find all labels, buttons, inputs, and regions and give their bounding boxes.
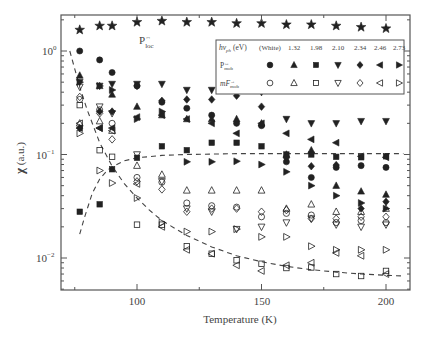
triangle-down-marker — [358, 118, 365, 124]
circle-marker — [109, 120, 115, 126]
xtick-label-100: 100 — [129, 295, 146, 307]
triangle-down-marker — [283, 220, 290, 226]
triangle-right-marker — [209, 158, 215, 165]
square-marker — [109, 154, 114, 159]
triangle-right-marker — [184, 158, 190, 165]
series-0 — [75, 16, 391, 34]
square-marker — [77, 209, 82, 214]
triangle-right-marker — [109, 180, 115, 187]
diamond-marker — [308, 163, 314, 170]
square-marker — [333, 154, 338, 159]
diamond-marker — [184, 96, 190, 103]
square-marker — [234, 140, 239, 145]
square-marker — [309, 152, 314, 157]
triangle-right-marker — [259, 233, 265, 240]
chart: 100 10−1 10−2 100 150 200 Temperature (K… — [0, 0, 428, 338]
triangle-up-marker — [96, 117, 103, 123]
triangle-up-marker — [308, 201, 315, 207]
legend-filled-square-icon — [313, 62, 318, 67]
square-marker — [134, 222, 139, 227]
triangle-left-marker — [96, 125, 102, 132]
triangle-up-marker — [183, 187, 190, 193]
square-marker — [97, 147, 102, 152]
circle-marker — [184, 105, 190, 111]
star-marker — [95, 21, 105, 30]
circle-marker — [184, 200, 190, 206]
triangle-right-marker — [284, 233, 290, 240]
square-marker — [259, 144, 264, 149]
star-marker — [207, 17, 217, 26]
legend-col-label: 1.98 — [310, 44, 323, 52]
triangle-left-marker — [332, 139, 338, 146]
triangle-left-marker — [283, 130, 289, 137]
triangle-up-marker — [208, 187, 215, 193]
fit-curve-2 — [80, 154, 404, 235]
triangle-right-marker — [184, 228, 190, 235]
diamond-marker — [109, 136, 115, 143]
triangle-right-marker — [309, 243, 315, 250]
square-marker — [77, 102, 82, 107]
star-marker — [75, 25, 85, 34]
square-marker — [209, 140, 214, 145]
triangle-left-marker — [258, 268, 264, 275]
triangle-right-marker — [284, 168, 290, 175]
series-13 — [76, 120, 389, 277]
legend-col-label: (White) — [259, 44, 281, 52]
legend-col-label: 2.34 — [354, 44, 367, 52]
circle-marker — [97, 57, 103, 63]
series-8 — [77, 96, 389, 225]
legend-col-label: 2.46 — [374, 44, 387, 52]
series-11 — [76, 84, 389, 233]
ytick-label-1e0: 100 — [42, 44, 57, 57]
ytick-label-1e-2: 10−2 — [36, 251, 55, 264]
x-axis-title: Temperature (K) — [203, 313, 277, 326]
triangle-up-marker — [134, 103, 141, 109]
triangle-up-marker — [358, 188, 365, 194]
triangle-right-marker — [333, 192, 339, 199]
diamond-marker — [258, 103, 264, 110]
triangle-down-marker — [183, 87, 190, 93]
diamond-marker — [208, 96, 214, 103]
triangle-up-marker — [233, 187, 240, 193]
star-marker — [182, 17, 192, 26]
series-9 — [76, 117, 389, 214]
xtick-label-150: 150 — [254, 295, 271, 307]
series-5 — [77, 82, 390, 212]
triangle-up-marker — [258, 187, 265, 193]
legend-col-label: 2.73 — [393, 44, 406, 52]
circle-marker — [358, 163, 364, 169]
triangle-right-marker — [234, 158, 240, 165]
legend-col-label: 2.10 — [332, 44, 345, 52]
triangle-right-marker — [259, 161, 265, 168]
diamond-marker — [134, 178, 140, 185]
diamond-marker — [109, 108, 115, 115]
triangle-right-marker — [209, 228, 215, 235]
triangle-up-marker — [333, 182, 340, 188]
triangle-right-marker — [309, 182, 315, 189]
square-marker — [184, 147, 189, 152]
triangle-up-marker — [159, 171, 166, 177]
triangle-left-marker — [308, 136, 314, 143]
legend: hνph (eV) (White)1.321.982.102.342.462.7… — [216, 40, 406, 94]
square-marker — [109, 167, 114, 172]
star-marker — [331, 21, 341, 30]
series-12 — [77, 93, 390, 222]
triangle-down-marker — [358, 224, 365, 230]
diamond-marker — [159, 186, 165, 193]
triangle-down-marker — [383, 222, 390, 228]
triangle-right-marker — [383, 246, 389, 253]
series-10 — [77, 102, 389, 278]
series-3 — [77, 140, 389, 214]
circle-marker — [308, 174, 314, 180]
series-14 — [77, 130, 390, 253]
triangle-down-marker — [383, 118, 390, 124]
triangle-down-marker — [333, 121, 340, 127]
triangle-down-marker — [283, 116, 290, 122]
circle-marker — [258, 214, 264, 220]
circle-marker — [77, 96, 83, 102]
star-marker — [282, 20, 292, 29]
star-marker — [381, 23, 391, 32]
star-marker — [307, 20, 317, 29]
circle-marker — [383, 164, 389, 170]
triangle-down-marker — [258, 224, 265, 230]
